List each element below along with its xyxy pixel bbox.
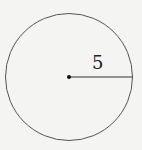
circle-figure xyxy=(0,0,142,150)
circle-diagram: 5 xyxy=(0,0,142,150)
radius-label: 5 xyxy=(92,54,103,72)
center-point xyxy=(67,75,71,79)
